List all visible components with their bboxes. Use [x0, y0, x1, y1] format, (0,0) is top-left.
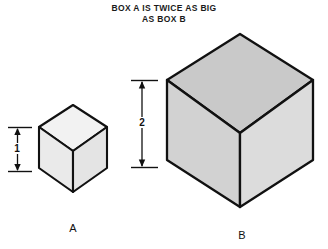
dimension-b-value: 2 — [134, 117, 150, 128]
figure-canvas: BOX A IS TWICE AS BIG AS BOX B — [0, 0, 328, 249]
cube-a-label: A — [53, 222, 93, 234]
dimension-b-arrowhead-up — [139, 81, 145, 89]
cubes-illustration — [0, 0, 328, 249]
cube-b-label: B — [222, 229, 262, 241]
dimension-a-arrowhead-down — [14, 164, 20, 171]
cube-a — [39, 105, 107, 192]
cube-b — [167, 34, 313, 207]
dimension-b-arrowhead-down — [139, 160, 145, 168]
dimension-a-arrowhead-up — [14, 128, 20, 135]
dimension-a-value: 1 — [9, 143, 25, 154]
